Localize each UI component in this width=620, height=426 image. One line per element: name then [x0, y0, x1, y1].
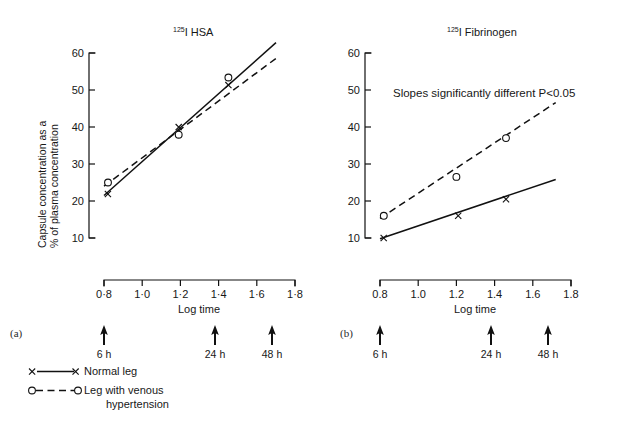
figure-svg: 125I HSA Capsule concentration as a % of… — [0, 0, 620, 426]
x-tick-label: 0·8 — [96, 288, 112, 300]
legend-label-venous-hypertension-line2: hypertension — [106, 398, 169, 410]
ylabel-line-2: % of plasma concentration — [48, 124, 60, 248]
panel-a-x-axis — [104, 280, 295, 286]
panel-b-title-isotope: 125 — [447, 26, 459, 33]
time-marker-6h: 6 h — [97, 325, 112, 360]
legend-marker-o-right — [75, 387, 82, 394]
x-tick-label: 1·0 — [134, 288, 150, 300]
time-marker-label: 24 h — [481, 348, 502, 360]
data-point-x — [225, 82, 231, 88]
panel-b-series-venous-line — [380, 103, 556, 219]
panel-b-y-ticks — [365, 53, 371, 238]
panel-a-marker-o-group — [105, 74, 232, 186]
x-tick-label: 1.0 — [411, 288, 426, 300]
panel-b-x-ticks — [380, 280, 571, 286]
panel-b-xlabel: Log time — [454, 303, 496, 315]
panel-a-series-venous-line — [104, 58, 276, 186]
y-tick-label: 60 — [348, 47, 360, 59]
legend-marker-x-left — [29, 369, 35, 375]
legend-marker-o-left — [29, 387, 36, 394]
ylabel-line-1: Capsule concentration as a — [36, 121, 48, 248]
time-marker-label: 24 h — [205, 348, 226, 360]
x-tick-label: 1.2 — [449, 288, 464, 300]
data-point-x — [455, 213, 461, 219]
y-tick-label: 20 — [348, 195, 360, 207]
panel-b: 125I Fibrinogen 60 50 40 30 20 10 Slopes — [340, 26, 579, 360]
panel-a-letter: (a) — [10, 327, 23, 340]
y-tick-label: 10 — [72, 232, 84, 244]
panel-b-series-normal-line — [380, 180, 556, 239]
time-marker-24h: 24 h — [481, 325, 502, 360]
panel-a-x-ticks — [104, 280, 295, 286]
panel-b-letter: (b) — [340, 327, 353, 340]
panel-a-ylabel: Capsule concentration as a % of plasma c… — [36, 121, 60, 248]
time-marker-48h: 48 h — [538, 325, 559, 360]
time-marker-label: 6 h — [373, 348, 388, 360]
y-tick-label: 60 — [72, 47, 84, 59]
legend-item-normal-leg: Normal leg — [29, 365, 137, 377]
y-tick-label: 10 — [348, 232, 360, 244]
panel-a-y-ticks — [89, 53, 95, 238]
x-tick-label: 1.8 — [563, 288, 578, 300]
data-point-o — [225, 74, 232, 81]
y-tick-label: 20 — [72, 195, 84, 207]
data-point-o — [105, 179, 112, 186]
time-marker-24h: 24 h — [205, 325, 226, 360]
panel-b-marker-x-group — [381, 196, 510, 241]
legend-label-venous-hypertension: Leg with venous — [84, 384, 164, 396]
x-tick-label: 1.4 — [487, 288, 502, 300]
x-tick-label: 1·8 — [287, 288, 303, 300]
time-marker-48h: 48 h — [262, 325, 283, 360]
time-marker-label: 6 h — [97, 348, 112, 360]
panel-b-plot — [380, 103, 556, 242]
panel-a-xlabel: Log time — [178, 303, 220, 315]
time-marker-label: 48 h — [538, 348, 559, 360]
y-tick-label: 30 — [72, 158, 84, 170]
panel-a-title-element: I HSA — [185, 26, 214, 38]
panel-b-annotation: Slopes significantly different P<0.05 — [393, 87, 575, 99]
panel-b-marker-o-group — [380, 135, 509, 220]
panel-b-time-markers: 6 h 24 h 48 h — [373, 325, 559, 360]
panel-a-plot — [104, 43, 276, 198]
x-tick-label: 0.8 — [372, 288, 387, 300]
x-tick-label: 1.6 — [525, 288, 540, 300]
y-tick-label: 50 — [72, 84, 84, 96]
panel-a-time-markers: 6 h 24 h 48 h — [97, 325, 283, 360]
panel-b-x-axis — [380, 280, 571, 286]
legend-label-normal-leg: Normal leg — [84, 365, 137, 377]
data-point-o — [453, 174, 460, 181]
panel-a-x-ticklabels: 0·8 1·0 1·2 1·4 1·6 1·8 — [96, 288, 303, 300]
legend-item-venous-hypertension: Leg with venous hypertension — [29, 384, 169, 410]
panel-b-title: 125I Fibrinogen — [447, 26, 517, 38]
time-marker-6h: 6 h — [373, 325, 388, 360]
data-point-o — [175, 131, 182, 138]
y-tick-label: 40 — [72, 121, 84, 133]
panel-b-y-ticklabels: 60 50 40 30 20 10 — [348, 47, 360, 244]
panel-a-title-isotope: 125 — [173, 26, 185, 33]
x-tick-label: 1·4 — [211, 288, 227, 300]
panel-a-y-ticklabels: 60 50 40 30 20 10 — [72, 47, 84, 244]
y-tick-label: 40 — [348, 121, 360, 133]
panel-a-title: 125I HSA — [173, 26, 214, 38]
x-tick-label: 1·6 — [249, 288, 265, 300]
y-tick-label: 50 — [348, 84, 360, 96]
figure-root: 125I HSA Capsule concentration as a % of… — [0, 0, 620, 426]
x-tick-label: 1·2 — [172, 288, 188, 300]
time-marker-label: 48 h — [262, 348, 283, 360]
figure-legend: Normal leg Leg with venous hypertension — [29, 365, 169, 410]
panel-b-title-element: I Fibrinogen — [459, 26, 517, 38]
data-point-o — [503, 135, 510, 142]
data-point-o — [380, 212, 387, 219]
panel-b-x-ticklabels: 0.8 1.0 1.2 1.4 1.6 1.8 — [372, 288, 578, 300]
y-tick-label: 30 — [348, 158, 360, 170]
panel-a: 125I HSA Capsule concentration as a % of… — [10, 26, 303, 360]
panel-b-y-axis — [365, 53, 371, 238]
panel-a-y-axis — [89, 53, 95, 238]
panel-a-series-normal-line — [104, 43, 276, 196]
